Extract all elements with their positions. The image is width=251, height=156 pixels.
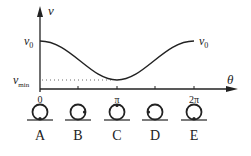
y-axis-label: v — [48, 3, 54, 18]
position-d: D — [142, 105, 168, 144]
velocity-angle-diagram: v θ v0 vmin v0 0 π 2π A B C D E — [0, 0, 251, 156]
svg-text:D: D — [150, 128, 160, 143]
dot-icon — [38, 117, 41, 120]
dot-icon — [147, 110, 150, 113]
tick-label-0: 0 — [38, 94, 43, 105]
y-axis-arrow-icon — [37, 6, 43, 17]
position-c: C — [104, 104, 130, 143]
dot-icon — [115, 104, 118, 107]
tick-label-2pi: 2π — [189, 94, 199, 105]
tick-label-pi: π — [114, 94, 119, 105]
svg-text:A: A — [35, 128, 46, 143]
position-e: E — [181, 105, 207, 144]
position-b: B — [65, 105, 91, 144]
v0-right-label: v0 — [199, 34, 208, 50]
x-axis-label: θ — [227, 72, 234, 87]
dot-icon — [83, 110, 86, 113]
v0-label: v0 — [24, 34, 33, 50]
position-a: A — [27, 105, 53, 144]
svg-text:E: E — [190, 128, 199, 143]
velocity-curve — [40, 41, 194, 80]
dot-icon — [192, 117, 195, 120]
svg-text:B: B — [73, 128, 82, 143]
vmin-label: vmin — [13, 73, 30, 89]
svg-text:C: C — [112, 128, 121, 143]
